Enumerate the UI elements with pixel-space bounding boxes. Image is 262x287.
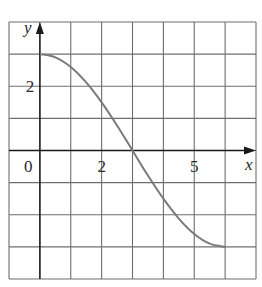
x-axis-label: x bbox=[244, 155, 253, 174]
x-tick-label-5: 5 bbox=[190, 157, 199, 176]
x-axis-arrow-icon bbox=[244, 147, 256, 155]
origin-label: 0 bbox=[24, 157, 33, 176]
axis-labels: y x 0 2 5 2 bbox=[22, 18, 253, 176]
function-graph: y x 0 2 5 2 bbox=[0, 0, 262, 287]
y-axis-label: y bbox=[22, 18, 32, 37]
y-axis-arrow-icon bbox=[36, 22, 44, 34]
x-tick-label-2: 2 bbox=[97, 157, 106, 176]
y-tick-label-2: 2 bbox=[26, 77, 35, 96]
